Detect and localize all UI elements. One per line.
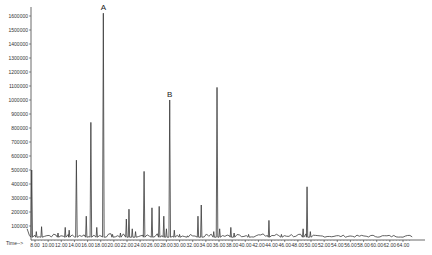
x-tick-label: 26.00 [147,242,160,248]
x-tick-label: 36.00 [213,242,226,248]
tic-series-line [27,13,412,237]
y-tick-label: 1300000 [9,55,29,61]
y-tick-label: 1100000 [9,83,28,89]
y-tick-label: 900000 [11,111,28,117]
x-tick-label: 22.00 [121,242,134,248]
x-tick-label: 54.00 [331,242,344,248]
x-tick-label: 24.00 [134,242,147,248]
peak-label-a: A [101,3,107,12]
y-tick-label: 1500000 [9,27,29,33]
x-tick-label: 28.00 [160,242,173,248]
x-tick-label: 14.00 [68,242,81,248]
y-tick-label: 500000 [11,167,28,173]
y-tick-label: 1600000 [9,13,29,19]
x-tick-label: 64.00 [397,242,410,248]
x-tick-label: 38.00 [226,242,239,248]
x-tick-label: 48.00 [292,242,305,248]
x-tick-label: 34.00 [200,242,213,248]
y-tick-label: 1200000 [9,69,29,75]
x-tick-label: 56.00 [344,242,357,248]
y-tick-label: 1400000 [9,41,29,47]
x-tick-label: 10.00 [42,242,55,248]
y-tick-label: 400000 [11,181,28,187]
x-tick-label: 62.00 [384,242,397,248]
x-tick-label: 32.00 [186,242,199,248]
x-tick-label: 8.00 [30,242,40,248]
x-tick-label: 18.00 [94,242,107,248]
x-tick-label: 52.00 [318,242,331,248]
x-tick-label: 20.00 [108,242,121,248]
peak-annotations: AB [32,3,311,236]
y-tick-label: 700000 [11,139,28,145]
x-tick-label: 58.00 [357,242,370,248]
x-tick-label: 60.00 [370,242,383,248]
peak-label-b: B [167,90,172,99]
x-tick-label: 30.00 [173,242,186,248]
x-axis-label: Time--> [6,240,23,246]
y-tick-label: 800000 [11,125,28,131]
y-tick-label: 1000000 [9,97,29,103]
y-tick-label: 600000 [11,153,28,159]
y-tick-label: 300000 [11,195,28,201]
x-tick-label: 12.00 [55,242,68,248]
x-tick-label: 44.00 [265,242,278,248]
y-axis-ticks: 1000002000003000004000005000006000007000… [9,13,31,229]
x-tick-label: 46.00 [278,242,291,248]
x-tick-label: 16.00 [81,242,94,248]
y-tick-label: 100000 [11,223,28,229]
chromatogram-chart: 1000002000003000004000005000006000007000… [0,0,432,255]
x-tick-label: 40.00 [239,242,252,248]
x-tick-label: 50.00 [305,242,318,248]
x-tick-label: 42.00 [252,242,265,248]
x-axis-ticks: 8.0010.0012.0014.0016.0018.0020.0022.002… [30,240,409,248]
y-tick-label: 200000 [11,209,28,215]
